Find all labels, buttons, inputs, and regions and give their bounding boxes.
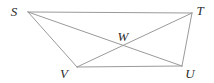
segment-SU <box>28 12 182 66</box>
segment-TV <box>77 13 192 67</box>
segment-VU <box>77 66 182 67</box>
vertex-label-W: W <box>118 30 129 43</box>
vertex-label-T: T <box>196 4 203 17</box>
segments-group <box>28 12 192 67</box>
vertex-label-V: V <box>60 67 68 80</box>
segment-TU <box>182 13 192 66</box>
figure-canvas <box>0 0 214 83</box>
vertex-label-S: S <box>11 5 18 18</box>
segment-ST <box>28 12 192 13</box>
vertex-label-U: U <box>185 67 194 80</box>
geometry-figure: S T U V W <box>0 0 214 83</box>
